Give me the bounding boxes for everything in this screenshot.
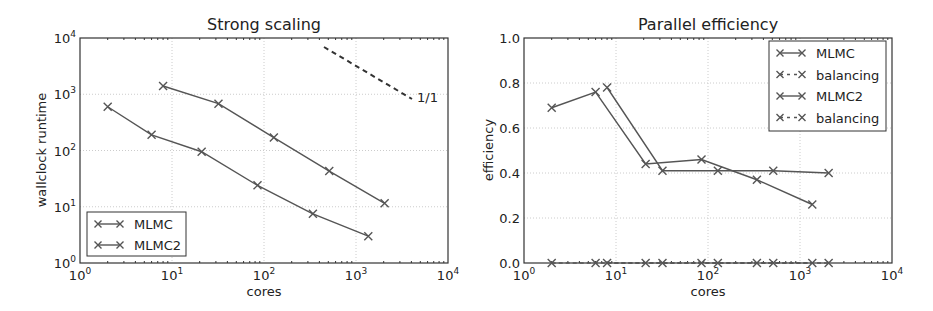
x-marker xyxy=(548,104,556,112)
tick-label: 104 xyxy=(54,29,77,46)
legend: MLMCbalancingMLMC2balancing xyxy=(769,41,886,131)
y-axis-label: wallclock runtime xyxy=(34,93,49,208)
chart-title: Strong scaling xyxy=(207,15,321,34)
chart-title: Parallel efficiency xyxy=(638,15,778,34)
tick-label: 0.8 xyxy=(499,76,520,91)
tick-label: 101 xyxy=(605,266,627,283)
tick-label: 100 xyxy=(69,266,92,283)
legend-label: balancing xyxy=(816,68,879,83)
x-marker xyxy=(254,181,262,189)
x-marker xyxy=(148,131,156,139)
legend-label: MLMC xyxy=(134,217,173,232)
y-axis-label: efficiency xyxy=(481,118,496,181)
tick-label: 103 xyxy=(54,85,76,102)
tick-label: 103 xyxy=(345,266,367,283)
legend-label: MLMC xyxy=(816,46,855,61)
tick-label: 102 xyxy=(697,266,719,283)
tick-label: 1.0 xyxy=(499,31,520,46)
tick-label: 104 xyxy=(437,266,460,283)
tick-label: 102 xyxy=(54,142,76,159)
x-marker xyxy=(603,84,611,92)
strong-scaling-chart: Strong scaling 1001011021031041001011021… xyxy=(34,15,459,299)
x-axis-label: cores xyxy=(691,284,726,299)
x-marker xyxy=(214,100,222,108)
x-marker xyxy=(364,232,372,240)
x-marker xyxy=(159,82,167,90)
tick-label: 104 xyxy=(881,266,904,283)
legend-label: balancing xyxy=(816,111,879,126)
tick-label: 101 xyxy=(54,198,76,215)
x-marker xyxy=(753,176,761,184)
legend-label: MLMC2 xyxy=(134,238,181,253)
x-marker xyxy=(325,167,333,175)
x-marker xyxy=(309,210,317,218)
x-marker xyxy=(381,199,389,207)
x-marker xyxy=(104,103,112,111)
series-mlmc2 xyxy=(159,82,389,207)
tick-label: 0.4 xyxy=(499,166,520,181)
tick-label: 0.6 xyxy=(499,121,520,136)
x-marker xyxy=(198,148,206,156)
legend: MLMCMLMC2 xyxy=(87,212,186,256)
tick-label: 102 xyxy=(253,266,275,283)
reference-annotation: 1/1 xyxy=(417,90,438,105)
tick-label: 0.0 xyxy=(499,256,520,271)
tick-label: 103 xyxy=(789,266,811,283)
x-marker xyxy=(270,134,278,142)
reference-line xyxy=(324,47,412,99)
tick-label: 101 xyxy=(161,266,183,283)
x-axis-label: cores xyxy=(247,284,282,299)
x-marker xyxy=(592,88,600,96)
parallel-efficiency-chart: Parallel efficiency 1001011021031040.00.… xyxy=(481,15,903,299)
tick-label: 0.2 xyxy=(499,211,520,226)
figure: Strong scaling 1001011021031041001011021… xyxy=(0,0,933,311)
legend-label: MLMC2 xyxy=(816,89,863,104)
x-marker xyxy=(808,201,816,209)
